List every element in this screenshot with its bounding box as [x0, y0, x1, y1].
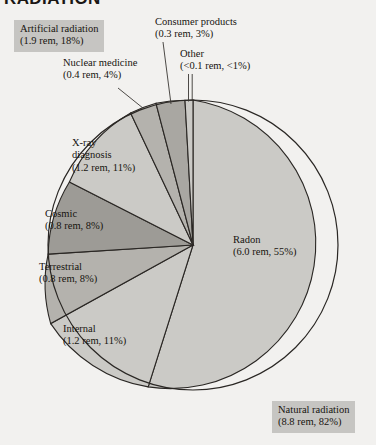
annotation-natural-radiation-line1: Natural radiation: [278, 404, 349, 416]
annotation-artificial-radiation-line1: Artificial radiation: [20, 23, 98, 35]
slice-label-consumer-products-line2: (0.3 rem, 3%): [155, 28, 237, 40]
annotation-natural-radiation-line2: (8.8 rem, 82%): [278, 416, 349, 428]
slice-label-xray-diagnosis-line2: diagnosis: [72, 149, 135, 161]
slice-label-nuclear-medicine-line1: Nuclear medicine: [63, 57, 137, 69]
slice-label-internal-line1: Internal: [63, 323, 126, 335]
slice-label-terrestrial-line2: (0.8 rem, 8%): [39, 273, 97, 285]
leader-line-consumer-products: [163, 42, 171, 104]
slice-label-xray-diagnosis: X-ray diagnosis (1.2 rem, 11%): [72, 137, 135, 174]
slice-label-other-line2: (<0.1 rem, <1%): [180, 60, 250, 72]
slice-label-radon-line2: (6.0 rem, 55%): [233, 246, 297, 258]
slice-label-consumer-products: Consumer products (0.3 rem, 3%): [155, 16, 237, 41]
slice-label-internal: Internal (1.2 rem, 11%): [63, 323, 126, 348]
slice-label-other-line1: Other: [180, 48, 250, 60]
slice-label-cosmic-line2: (0.8 rem, 8%): [45, 220, 103, 232]
annotation-artificial-radiation: Artificial radiation (1.9 rem, 18%): [14, 20, 104, 52]
slice-label-radon: Radon (6.0 rem, 55%): [233, 234, 297, 259]
slice-label-nuclear-medicine: Nuclear medicine (0.4 rem, 4%): [63, 57, 137, 82]
slice-label-radon-line1: Radon: [233, 234, 297, 246]
annotation-artificial-radiation-line2: (1.9 rem, 18%): [20, 35, 98, 47]
slice-label-xray-diagnosis-line3: (1.2 rem, 11%): [72, 162, 135, 174]
slice-label-nuclear-medicine-line2: (0.4 rem, 4%): [63, 69, 137, 81]
slice-label-internal-line2: (1.2 rem, 11%): [63, 335, 126, 347]
chart-figure: RADIATION Artificial radiation (1.9 rem,…: [0, 0, 376, 445]
slice-label-other: Other (<0.1 rem, <1%): [180, 48, 250, 73]
slice-label-xray-diagnosis-line1: X-ray: [72, 137, 135, 149]
slice-label-terrestrial-line1: Terrestrial: [39, 261, 97, 273]
annotation-natural-radiation: Natural radiation (8.8 rem, 82%): [272, 401, 355, 433]
slice-label-cosmic: Cosmic (0.8 rem, 8%): [45, 208, 103, 233]
slice-label-consumer-products-line1: Consumer products: [155, 16, 237, 28]
slice-label-terrestrial: Terrestrial (0.8 rem, 8%): [39, 261, 97, 286]
leader-line-nuclear-medicine: [118, 88, 144, 109]
slice-label-cosmic-line1: Cosmic: [45, 208, 103, 220]
